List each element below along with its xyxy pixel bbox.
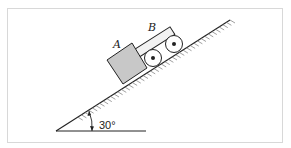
angle-label: 30°: [99, 119, 116, 131]
incline-diagram: 30° A B: [0, 0, 291, 148]
cart-b-label: B: [147, 21, 156, 34]
angle-arrow-bottom: [90, 126, 94, 131]
cart-b-wheel-rear-axle: [172, 42, 176, 46]
cart-b-wheel-front-axle: [151, 56, 155, 60]
block-a-label: A: [112, 38, 121, 51]
